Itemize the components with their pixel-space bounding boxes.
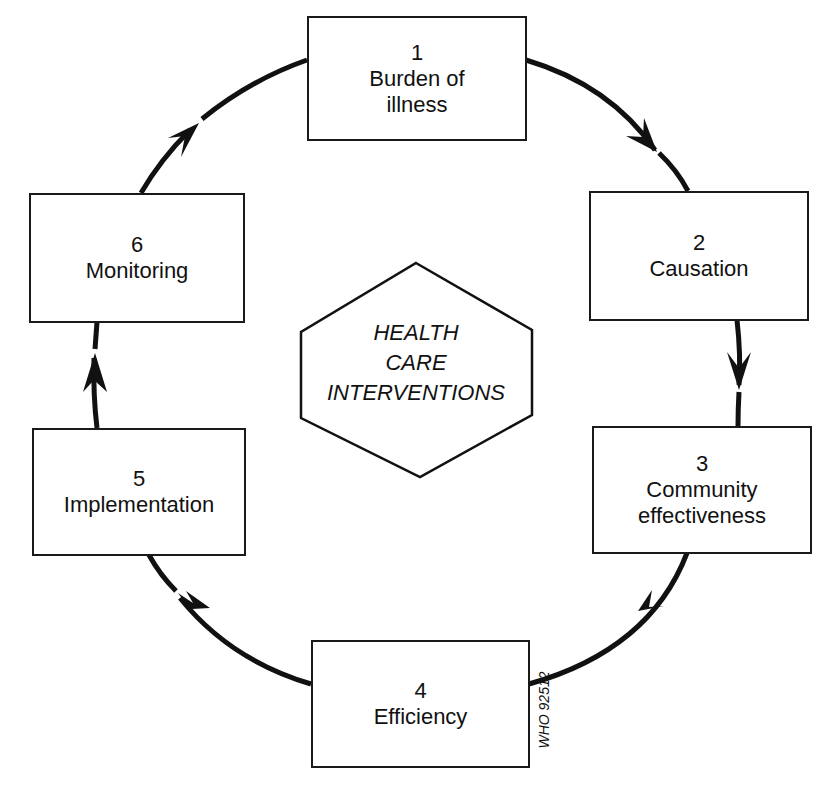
center-title: HEALTH CARE INTERVENTIONS xyxy=(300,318,532,408)
step-label: Community effectiveness xyxy=(638,477,766,529)
step-label: Burden of illness xyxy=(369,66,464,118)
center-title-line: CARE xyxy=(300,348,532,378)
step-number: 6 xyxy=(131,232,143,258)
arrowhead-4-5-icon xyxy=(178,591,210,624)
connector-2-3b xyxy=(738,392,739,426)
center-title-line: INTERVENTIONS xyxy=(300,378,532,408)
step-number: 5 xyxy=(133,466,145,492)
connector-4-5b xyxy=(149,555,176,591)
step-number: 2 xyxy=(693,230,705,256)
step-number: 4 xyxy=(414,678,426,704)
step-number: 1 xyxy=(411,40,423,66)
step-box-efficiency: 4 Efficiency xyxy=(311,640,530,768)
step-label: Implementation xyxy=(64,492,214,518)
center-title-line: HEALTH xyxy=(300,318,532,348)
connector-4-5 xyxy=(180,598,311,684)
connector-5-6b xyxy=(95,322,97,349)
step-box-causation: 2 Causation xyxy=(589,191,809,321)
step-box-monitoring: 6 Monitoring xyxy=(29,193,245,323)
step-label: Causation xyxy=(649,256,748,282)
connector-6-1 xyxy=(141,130,190,193)
step-label: Efficiency xyxy=(374,704,468,730)
connector-1-2 xyxy=(526,60,655,150)
connector-1-2b xyxy=(659,153,688,191)
connector-6-1b xyxy=(202,60,307,119)
step-number: 3 xyxy=(696,451,708,477)
figure-code: WHO 92512 xyxy=(534,655,554,765)
step-box-implementation: 5 Implementation xyxy=(32,428,246,556)
step-label: Monitoring xyxy=(86,258,189,284)
step-box-burden-of-illness: 1 Burden of illness xyxy=(307,16,527,141)
step-box-community-effectiveness: 3 Community effectiveness xyxy=(592,426,812,554)
